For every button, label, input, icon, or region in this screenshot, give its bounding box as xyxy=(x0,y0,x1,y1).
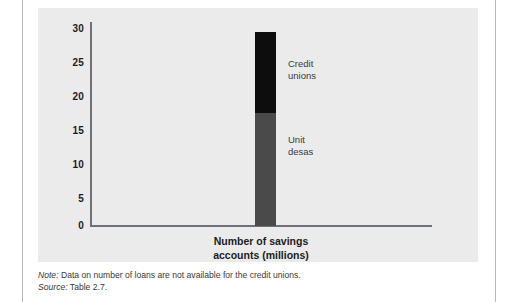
footnote-source: Source: Table 2.7. xyxy=(38,282,478,294)
x-axis-title: Number of savings accounts (millions) xyxy=(90,234,432,262)
y-tick-label-15: 15 xyxy=(50,125,84,136)
footnote-source-lead: Source: xyxy=(38,282,68,292)
figure-panel: 30 25 20 15 10 5 0 Credit unions Unit de… xyxy=(38,8,478,262)
footnote-note-text: Data on number of loans are not availabl… xyxy=(59,270,301,280)
y-tick-label-5: 5 xyxy=(50,193,84,204)
bar-label-unit-desas: Unit desas xyxy=(288,134,313,158)
y-tick-label-25: 25 xyxy=(50,57,84,68)
y-axis-line xyxy=(90,22,92,227)
stacked-bar xyxy=(255,32,276,226)
y-tick-label-30: 30 xyxy=(50,23,84,34)
y-tick-label-10: 10 xyxy=(50,159,84,170)
footnote-source-text: Table 2.7. xyxy=(68,282,108,292)
bar-segment-unit-desas xyxy=(255,113,276,226)
footnote-note-lead: Note: xyxy=(38,270,59,280)
bar-label-credit-unions: Credit unions xyxy=(288,58,316,82)
footnote-note: Note: Data on number of loans are not av… xyxy=(38,270,478,282)
page-rule-left xyxy=(22,0,23,302)
plot-area: 30 25 20 15 10 5 0 Credit unions Unit de… xyxy=(38,8,478,262)
page-rule-right xyxy=(495,0,496,302)
bar-segment-credit-unions xyxy=(255,32,276,113)
footnotes: Note: Data on number of loans are not av… xyxy=(38,270,478,293)
y-tick-label-0: 0 xyxy=(50,220,84,231)
y-tick-label-20: 20 xyxy=(50,91,84,102)
